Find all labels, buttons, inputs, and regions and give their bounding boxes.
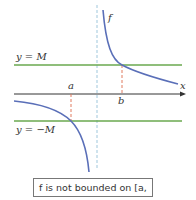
- x-axis-label: x: [180, 80, 186, 91]
- f-label: f: [108, 12, 112, 23]
- diagram-canvas: [0, 0, 196, 200]
- b-label: b: [118, 95, 124, 106]
- y-lower-label: y = −M: [16, 124, 55, 135]
- curve-right-branch: [103, 10, 178, 84]
- x-axis-arrow-icon: [180, 92, 186, 97]
- curve-left-branch: [14, 101, 89, 172]
- y-upper-label: y = M: [16, 51, 47, 62]
- caption-box: f is not bounded on [a, b].: [33, 178, 153, 197]
- a-label: a: [68, 80, 74, 91]
